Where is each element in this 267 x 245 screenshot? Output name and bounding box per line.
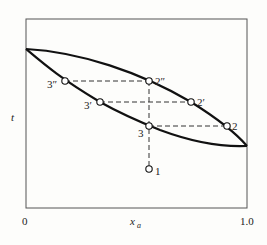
- label-2p: 2′: [197, 96, 205, 108]
- x-axis-subscript: a: [137, 221, 141, 230]
- upper-curve: [26, 49, 247, 146]
- phase-diagram: 3″ 2″ 3′ 2′ 3 2 1 t 0 1.0 x a: [0, 0, 267, 245]
- label-1: 1: [155, 165, 161, 177]
- point-1: [146, 166, 152, 172]
- lower-curve: [26, 49, 247, 146]
- point-3p: [97, 99, 103, 105]
- y-axis-label: t: [11, 111, 15, 123]
- point-3pp: [62, 78, 68, 84]
- x-tick-0: 0: [22, 215, 28, 227]
- x-tick-1: 1.0: [240, 215, 254, 227]
- point-2p: [188, 99, 194, 105]
- label-2pp: 2″: [155, 75, 165, 87]
- label-3pp: 3″: [47, 78, 57, 90]
- point-3: [146, 123, 152, 129]
- label-3: 3: [138, 127, 144, 139]
- label-3p: 3′: [84, 99, 92, 111]
- label-2: 2: [232, 120, 238, 132]
- plot-frame: [26, 19, 247, 208]
- point-2pp: [146, 78, 152, 84]
- x-axis-label: x: [129, 215, 135, 227]
- point-2: [224, 123, 230, 129]
